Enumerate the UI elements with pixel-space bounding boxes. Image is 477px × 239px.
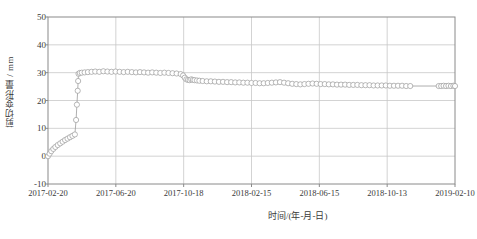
plot-area bbox=[0, 0, 477, 239]
axis-frame bbox=[45, 17, 455, 187]
chart-figure: 剪切变形量 / mm -1001020304050 2017-02-202017… bbox=[0, 0, 477, 239]
grid-lines bbox=[48, 17, 455, 184]
